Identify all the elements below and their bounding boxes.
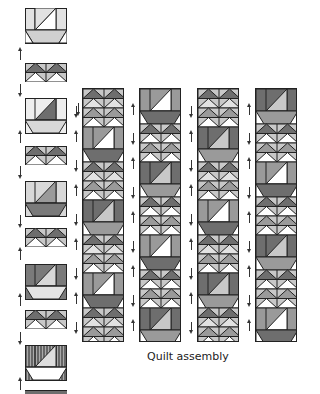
press-arrow-down — [20, 215, 21, 225]
press-arrow — [76, 214, 77, 223]
press-arrow — [191, 187, 192, 196]
press-arrow — [76, 106, 77, 115]
press-arrow-up — [20, 133, 21, 143]
press-arrow — [76, 241, 77, 250]
flying-geese-block — [25, 63, 67, 82]
sailboat-block — [25, 181, 67, 217]
press-arrow — [133, 106, 134, 115]
press-arrow — [76, 268, 77, 277]
press-arrow — [191, 106, 192, 115]
flying-geese-block — [25, 310, 67, 329]
press-arrow — [191, 214, 192, 223]
press-arrow — [249, 295, 250, 304]
sailboat-block — [25, 98, 67, 134]
figure-caption: Quilt assembly — [147, 350, 229, 363]
press-arrow — [249, 187, 250, 196]
press-arrow — [133, 133, 134, 142]
press-arrow-down — [20, 166, 21, 176]
quilt-column-2 — [139, 88, 181, 342]
press-arrow — [249, 241, 250, 250]
quilt-column-4 — [255, 88, 297, 342]
press-arrow-up — [20, 380, 21, 390]
quilt-column-3 — [197, 88, 239, 342]
press-arrow — [249, 106, 250, 115]
press-arrow-up — [20, 50, 21, 60]
press-arrow — [76, 187, 77, 196]
press-arrow — [76, 160, 77, 169]
press-arrow — [191, 133, 192, 142]
press-arrow — [133, 322, 134, 331]
flying-geese-block-partial — [25, 390, 67, 394]
press-arrow — [249, 133, 250, 142]
quilt-column-1 — [82, 88, 124, 342]
press-arrow — [191, 295, 192, 304]
press-arrow — [76, 295, 77, 304]
press-arrow — [191, 322, 192, 331]
flying-geese-block — [25, 146, 67, 165]
sailboat-block — [25, 264, 67, 300]
press-arrow-up — [20, 296, 21, 306]
press-arrow — [133, 268, 134, 277]
press-arrow — [249, 268, 250, 277]
press-arrow-up — [20, 250, 21, 260]
press-arrow — [76, 322, 77, 331]
press-arrow — [133, 160, 134, 169]
press-arrow — [133, 214, 134, 223]
press-arrow — [133, 295, 134, 304]
press-arrow-down — [78, 103, 79, 113]
press-arrow — [249, 214, 250, 223]
press-arrow — [133, 187, 134, 196]
press-arrow-down — [20, 84, 21, 94]
press-arrow — [191, 160, 192, 169]
press-arrow-down — [20, 332, 21, 342]
press-arrow — [191, 241, 192, 250]
flying-geese-block — [25, 228, 67, 247]
press-arrow — [249, 322, 250, 331]
sailboat-block — [25, 8, 67, 44]
press-arrow — [76, 133, 77, 142]
press-arrow — [133, 241, 134, 250]
press-arrow — [191, 268, 192, 277]
press-arrow — [249, 160, 250, 169]
sailboat-block — [25, 345, 67, 381]
